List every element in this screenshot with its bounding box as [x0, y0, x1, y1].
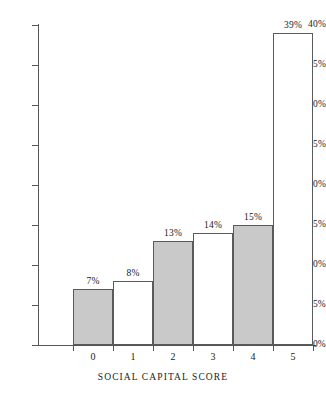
- bar-value-label: 8%: [113, 269, 153, 279]
- x-axis-tick-label: 1: [113, 352, 153, 362]
- y-axis-tick: [32, 265, 39, 266]
- x-axis-tick: [193, 346, 194, 351]
- x-axis-line: [38, 345, 316, 346]
- bar-value-label: 15%: [233, 213, 273, 223]
- x-axis-tick: [153, 346, 154, 351]
- x-axis-tick-label: 2: [153, 352, 193, 362]
- bar-value-label: 13%: [153, 229, 193, 239]
- x-axis-title: SOCIAL CAPITAL SCORE: [0, 372, 326, 382]
- y-axis-tick: [32, 225, 39, 226]
- y-axis-tick: [32, 345, 39, 346]
- bar: [233, 225, 273, 345]
- x-axis-tick: [113, 346, 114, 351]
- x-axis-tick: [73, 346, 74, 351]
- y-axis-tick: [32, 25, 39, 26]
- x-axis-tick-label: 3: [193, 352, 233, 362]
- y-axis-tick: [32, 65, 39, 66]
- bar-chart: 0%5%10%15%20%25%30%35%40% 012345 7%8%13%…: [0, 0, 326, 393]
- bar-value-label: 14%: [193, 221, 233, 231]
- y-axis-tick: [32, 105, 39, 106]
- y-axis-tick: [32, 145, 39, 146]
- y-axis-tick: [32, 305, 39, 306]
- x-axis-tick-label: 4: [233, 352, 273, 362]
- x-axis-tick: [313, 346, 314, 351]
- bar: [153, 241, 193, 345]
- bar: [113, 281, 153, 345]
- bar-value-label: 39%: [273, 21, 313, 31]
- x-axis-tick: [273, 346, 274, 351]
- bar: [193, 233, 233, 345]
- x-axis-tick-label: 0: [73, 352, 113, 362]
- bar: [273, 33, 313, 345]
- x-axis-tick: [233, 346, 234, 351]
- y-axis-tick: [32, 185, 39, 186]
- bar-value-label: 7%: [73, 277, 113, 287]
- x-axis-tick-label: 5: [273, 352, 313, 362]
- bar: [73, 289, 113, 345]
